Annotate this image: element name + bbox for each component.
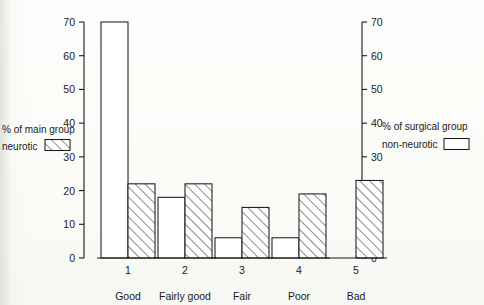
category-number-labels: 12345 xyxy=(125,264,359,276)
left-tick-label: 60 xyxy=(63,50,75,62)
left-tick-label: 0 xyxy=(69,252,75,264)
open-swatch-icon xyxy=(444,139,469,150)
bar-neurotic xyxy=(185,184,212,258)
category-number: 4 xyxy=(296,264,302,276)
right-tick-label: 50 xyxy=(371,83,383,95)
left-tick-label: 20 xyxy=(63,185,75,197)
bar-neurotic xyxy=(242,207,269,258)
category-name: Poor xyxy=(288,290,311,302)
legend-right-entry-label: non-neurotic xyxy=(382,139,438,150)
bar-neurotic xyxy=(128,184,155,258)
right-tick-label: 60 xyxy=(371,50,383,62)
left-tick-label: 50 xyxy=(63,83,75,95)
category-name: Fair xyxy=(233,290,252,302)
legend-right: % of surgical group non-neurotic xyxy=(382,121,469,150)
right-tick-label: 30 xyxy=(371,151,383,163)
left-tick-label: 30 xyxy=(63,151,75,163)
category-name: Good xyxy=(115,290,141,302)
category-name: Bad xyxy=(347,290,366,302)
category-number: 1 xyxy=(125,264,131,276)
bar-non-neurotic xyxy=(101,22,128,258)
bars-group xyxy=(101,22,383,258)
category-number: 3 xyxy=(239,264,245,276)
left-tick-label: 10 xyxy=(63,218,75,230)
category-number: 2 xyxy=(182,264,188,276)
category-name: Fairly good xyxy=(159,290,211,302)
bar-neurotic xyxy=(299,194,326,258)
legend-left-title: % of main group xyxy=(2,124,75,135)
bar-non-neurotic xyxy=(215,238,242,258)
legend-left: % of main group neurotic xyxy=(2,124,75,152)
legend-left-entry-label: neurotic xyxy=(2,141,38,152)
right-tick-label: 70 xyxy=(371,16,383,28)
category-name-labels: GoodFairly goodFairPoorBad xyxy=(115,290,365,302)
hatched-swatch-icon xyxy=(45,140,70,151)
bar-chart: 010203040506070 010203040506070 12345 Go… xyxy=(0,0,484,305)
bar-non-neurotic xyxy=(158,197,185,258)
bar-non-neurotic xyxy=(272,238,299,258)
legend-right-title: % of surgical group xyxy=(382,121,468,132)
left-tick-label: 70 xyxy=(63,16,75,28)
category-number: 5 xyxy=(353,264,359,276)
left-axis-ticks xyxy=(79,22,84,258)
bar-neurotic xyxy=(356,180,383,258)
